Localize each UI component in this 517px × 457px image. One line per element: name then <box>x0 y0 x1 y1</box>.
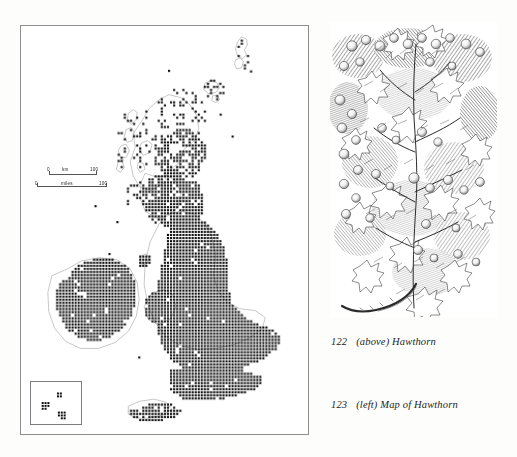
scale-row-miles: 0 miles 100 <box>35 178 113 190</box>
channel-islands-inset <box>30 381 82 425</box>
caption-122-title: Hawthorn <box>392 336 436 347</box>
scale-label-miles-max: 100 <box>99 180 107 187</box>
caption-123-number: 123 <box>331 399 347 410</box>
map-scale-bar: 0 km 100 0 miles 100 <box>35 166 113 192</box>
distribution-dot-grid <box>21 26 308 434</box>
scale-label-km-max: 100 <box>90 166 98 173</box>
caption-figure-123: 123(left) Map of Hawthorn <box>331 399 458 410</box>
distribution-map-panel: 0 km 100 0 miles 100 <box>20 25 309 435</box>
caption-123-position: (left) <box>356 399 377 410</box>
caption-122-position: (above) <box>356 336 389 347</box>
caption-123-title: Map of Hawthorn <box>380 399 458 410</box>
scale-line-km <box>49 174 97 175</box>
hawthorn-illustration <box>330 22 497 317</box>
caption-122-number: 122 <box>331 336 347 347</box>
hawthorn-engraving-art <box>330 22 497 317</box>
caption-figure-122: 122(above) Hawthorn <box>331 336 436 347</box>
book-page: 0 km 100 0 miles 100 <box>0 0 517 457</box>
scale-label-miles-unit: miles <box>61 180 73 187</box>
scale-label-km-unit: km <box>62 166 69 173</box>
scale-row-km: 0 km 100 <box>35 166 113 178</box>
scale-label-miles-min: 0 <box>35 180 38 187</box>
channel-islands-dots <box>31 382 81 424</box>
scale-label-km-min: 0 <box>47 166 50 173</box>
